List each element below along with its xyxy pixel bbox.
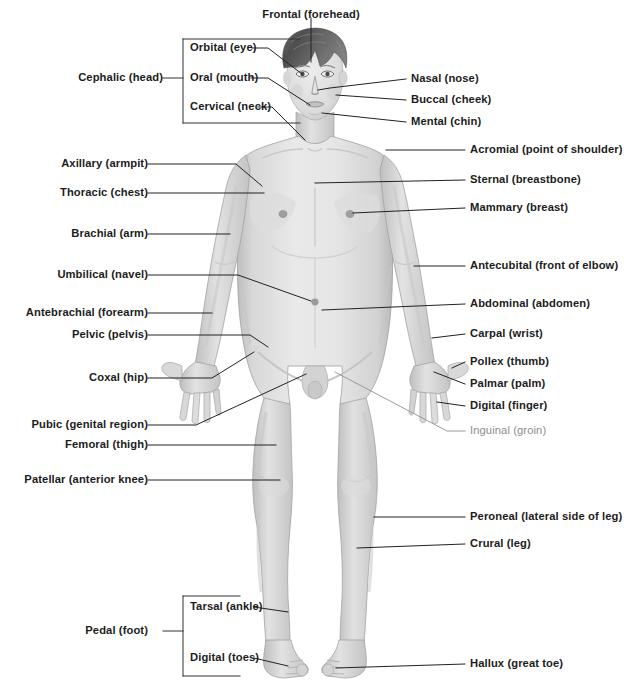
label-abdominal[interactable]: Abdominal (abdomen): [470, 298, 590, 309]
leader-pelvic: [148, 335, 268, 347]
label-buccal[interactable]: Buccal (cheek): [411, 94, 491, 105]
label-digital-toes[interactable]: Digital (toes): [190, 652, 259, 663]
label-patellar[interactable]: Patellar (anterior knee): [0, 474, 148, 485]
label-orbital[interactable]: Orbital (eye): [190, 42, 257, 53]
label-thoracic[interactable]: Thoracic (chest): [0, 187, 148, 198]
leader-digital-finger: [437, 402, 465, 406]
label-inguinal[interactable]: Inguinal (groin): [470, 425, 546, 436]
leader-coxal: [148, 352, 254, 378]
leader-umbilical: [148, 275, 311, 301]
label-umbilical[interactable]: Umbilical (navel): [0, 269, 148, 280]
leader-mental: [322, 113, 406, 122]
leader-crural: [357, 544, 465, 548]
label-digital-finger[interactable]: Digital (finger): [470, 400, 547, 411]
label-tarsal[interactable]: Tarsal (ankle): [190, 601, 263, 612]
leader-buccal: [336, 95, 406, 100]
leader-hallux: [336, 664, 465, 668]
label-pubic[interactable]: Pubic (genital region): [0, 419, 148, 430]
label-peroneal[interactable]: Peroneal (lateral side of leg): [470, 511, 622, 522]
label-mental[interactable]: Mental (chin): [411, 116, 481, 127]
leader-abdominal: [322, 304, 465, 310]
anatomical-diagram: Frontal (forehead) Cephalic (head) Orbit…: [0, 0, 630, 694]
label-axillary[interactable]: Axillary (armpit): [0, 158, 148, 169]
label-acromial[interactable]: Acromial (point of shoulder): [470, 144, 623, 155]
label-coxal[interactable]: Coxal (hip): [0, 372, 148, 383]
label-antebrachial[interactable]: Antebrachial (forearm): [0, 307, 148, 318]
leader-orbital: [252, 48, 302, 74]
label-crural[interactable]: Crural (leg): [470, 538, 531, 549]
label-femoral[interactable]: Femoral (thigh): [0, 439, 148, 450]
leader-inguinal: [335, 372, 465, 431]
label-mammary[interactable]: Mammary (breast): [470, 202, 568, 213]
label-cervical[interactable]: Cervical (neck): [190, 101, 271, 112]
label-antecubital[interactable]: Antecubital (front of elbow): [470, 260, 618, 271]
leader-lines-layer: [0, 0, 630, 694]
label-cephalic[interactable]: Cephalic (head): [0, 72, 163, 83]
label-sternal[interactable]: Sternal (breastbone): [470, 174, 581, 185]
label-pollex[interactable]: Pollex (thumb): [470, 356, 549, 367]
label-oral[interactable]: Oral (mouth): [190, 72, 258, 83]
label-pelvic[interactable]: Pelvic (pelvis): [0, 329, 148, 340]
label-carpal[interactable]: Carpal (wrist): [470, 328, 543, 339]
leader-carpal: [432, 334, 465, 338]
leader-axillary: [148, 164, 262, 186]
label-nasal[interactable]: Nasal (nose): [411, 73, 479, 84]
leader-sternal: [315, 180, 465, 183]
leader-nasal: [318, 79, 406, 90]
label-brachial[interactable]: Brachial (arm): [0, 228, 148, 239]
label-palmar[interactable]: Palmar (palm): [470, 378, 545, 389]
label-hallux[interactable]: Hallux (great toe): [470, 658, 563, 669]
leader-mammary: [353, 208, 465, 213]
label-pedal[interactable]: Pedal (foot): [0, 625, 148, 636]
leader-pollex: [452, 362, 465, 368]
label-frontal[interactable]: Frontal (forehead): [262, 9, 360, 20]
leader-palmar: [434, 372, 465, 384]
leader-pubic: [148, 374, 306, 425]
